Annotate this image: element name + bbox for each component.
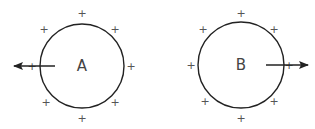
positive-charge-icon: +	[39, 23, 48, 36]
circle-label: B	[236, 56, 246, 74]
positive-charge-icon: +	[186, 59, 195, 72]
circle-label: A	[77, 57, 88, 75]
positive-charge-icon: +	[41, 96, 50, 109]
positive-charge-icon: +	[269, 23, 278, 36]
positive-charge-icon: +	[110, 23, 119, 36]
sphere-a: A++++++++	[14, 7, 136, 125]
positive-charge-icon: +	[198, 23, 207, 36]
charged-circles-diagram: A++++++++B++++++++	[0, 0, 315, 129]
positive-charge-icon: +	[269, 95, 278, 108]
positive-charge-icon: +	[236, 7, 245, 20]
positive-charge-icon: +	[77, 112, 86, 125]
positive-charge-icon: +	[126, 60, 135, 73]
positive-charge-icon: +	[236, 112, 245, 125]
sphere-b: B++++++++	[186, 7, 308, 125]
positive-charge-icon: +	[200, 95, 209, 108]
positive-charge-icon: +	[77, 7, 86, 20]
positive-charge-icon: +	[110, 96, 119, 109]
